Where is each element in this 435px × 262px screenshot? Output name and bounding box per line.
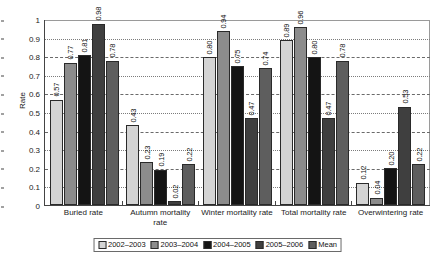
bar[interactable]: 0.02	[168, 201, 181, 205]
bar-value-label: 0.57	[53, 83, 61, 97]
bar[interactable]: 0.78	[336, 61, 349, 205]
bar-value-label: 0.47	[248, 101, 256, 115]
y-axis-tick-mark	[1, 57, 4, 58]
bar-slot: 0.81	[78, 20, 91, 205]
y-axis-tick-mark	[1, 132, 4, 133]
x-axis-category-label: Total mortality rate	[275, 208, 352, 228]
y-axis-tick-label: 0.7	[4, 71, 40, 80]
bar-value-label: 0.81	[81, 38, 89, 52]
bar-value-label: 0.19	[158, 153, 166, 167]
bar[interactable]: 0.22	[182, 164, 195, 205]
bar-slot: 0.78	[336, 20, 349, 205]
bar-value-label: 0.89	[283, 24, 291, 38]
bar-slot: 0.77	[64, 20, 77, 205]
bar-value-label: 0.20	[388, 151, 396, 165]
legend-item[interactable]: 2002–2003	[98, 241, 146, 249]
y-axis-tick-label: 0	[4, 202, 40, 211]
bar-value-label: 0.43	[130, 109, 138, 123]
bar[interactable]: 0.80	[308, 57, 321, 205]
x-axis-category-label: Overwintering rate	[352, 208, 429, 228]
bar-slot: 0.22	[182, 20, 195, 205]
bar-slot: 0.74	[259, 20, 272, 205]
bar-group: 0.120.040.200.530.22	[352, 20, 429, 205]
bar-value-label: 0.96	[297, 11, 305, 25]
bar-slot: 0.53	[398, 20, 411, 205]
x-axis-category-label: Buried rate	[45, 208, 122, 228]
legend-label: 2003–2004	[161, 241, 199, 249]
bar[interactable]: 0.80	[203, 57, 216, 205]
bar[interactable]: 0.47	[322, 118, 335, 205]
bar[interactable]: 0.19	[154, 170, 167, 205]
legend-label: 2004–2005	[213, 241, 251, 249]
bar-slot: 0.19	[154, 20, 167, 205]
bar-value-label: 0.02	[172, 185, 180, 199]
bar[interactable]: 0.43	[126, 125, 139, 205]
legend-swatch-icon	[98, 241, 106, 249]
bar[interactable]: 0.98	[92, 24, 105, 205]
bar[interactable]: 0.96	[294, 27, 307, 205]
y-axis-tick-label: 0.3	[4, 146, 40, 155]
legend-label: Mean	[318, 241, 337, 249]
bar-slot: 0.89	[280, 20, 293, 205]
bar-slot: 0.47	[322, 20, 335, 205]
bar-slot: 0.23	[140, 20, 153, 205]
legend-item[interactable]: 2005–2006	[256, 241, 304, 249]
bar-slot: 0.02	[168, 20, 181, 205]
y-axis-tick-label: 0.1	[4, 183, 40, 192]
bar-group: 0.890.960.800.470.78	[276, 20, 353, 205]
bar[interactable]: 0.81	[78, 55, 91, 205]
bar-slot: 0.96	[294, 20, 307, 205]
bar-value-label: 0.12	[360, 166, 368, 180]
bar-slot: 0.98	[92, 20, 105, 205]
bar[interactable]: 0.22	[412, 164, 425, 205]
bar-group: 0.430.230.190.020.22	[123, 20, 200, 205]
bar-groups: 0.570.770.810.980.780.430.230.190.020.22…	[46, 20, 429, 205]
y-axis-tick-mark	[1, 94, 4, 95]
bar-slot: 0.80	[203, 20, 216, 205]
bar[interactable]: 0.74	[259, 68, 272, 205]
y-axis-tick-label: 0.5	[4, 109, 40, 118]
bar[interactable]: 0.20	[384, 168, 397, 205]
bar[interactable]: 0.23	[140, 162, 153, 205]
bar-slot: 0.47	[245, 20, 258, 205]
y-axis-tick-mark	[1, 187, 4, 188]
legend-item[interactable]: Mean	[308, 241, 337, 249]
bar-value-label: 0.75	[234, 49, 242, 63]
bar-slot: 0.12	[356, 20, 369, 205]
legend-item[interactable]: 2004–2005	[203, 241, 251, 249]
bar-value-label: 0.22	[416, 148, 424, 162]
bar-group: 0.800.940.750.470.74	[199, 20, 276, 205]
legend-swatch-icon	[151, 241, 159, 249]
bar[interactable]: 0.53	[398, 107, 411, 205]
bar[interactable]: 0.78	[106, 61, 119, 205]
bar-value-label: 0.53	[402, 90, 410, 104]
y-axis-tick-labels: 10.90.80.70.60.50.40.30.20.10	[4, 20, 40, 206]
bar[interactable]: 0.94	[217, 31, 230, 205]
y-axis-tick-label: 1	[4, 16, 40, 25]
bar-value-label: 0.74	[262, 51, 270, 65]
bar[interactable]: 0.77	[64, 63, 77, 205]
bar[interactable]: 0.04	[370, 198, 383, 205]
bar[interactable]: 0.12	[356, 183, 369, 205]
bar-slot: 0.43	[126, 20, 139, 205]
y-axis-tick-mark	[1, 76, 4, 77]
y-axis-tick-mark	[1, 150, 4, 151]
bar-value-label: 0.23	[144, 146, 152, 160]
bar[interactable]: 0.57	[50, 100, 63, 205]
bar-value-label: 0.80	[206, 40, 214, 54]
x-axis-category-label: Winter mortality rate	[199, 208, 276, 228]
bar[interactable]: 0.75	[231, 66, 244, 205]
x-axis-category-labels: Buried rateAutumn mortality rateWinter m…	[45, 208, 429, 228]
bar[interactable]: 0.47	[245, 118, 258, 205]
bar-chart: Rate 10.90.80.70.60.50.40.30.20.10 0.570…	[0, 0, 435, 262]
y-axis-tick-mark	[1, 39, 4, 40]
bar[interactable]: 0.89	[280, 40, 293, 205]
legend-item[interactable]: 2003–2004	[151, 241, 199, 249]
y-axis-tick-mark	[1, 206, 4, 207]
y-axis-tick-label: 0.6	[4, 90, 40, 99]
legend-label: 2005–2006	[266, 241, 304, 249]
bar-slot: 0.04	[370, 20, 383, 205]
bar-value-label: 0.78	[109, 44, 117, 58]
bar-value-label: 0.77	[67, 46, 75, 60]
y-axis-tick-label: 0.9	[4, 34, 40, 43]
